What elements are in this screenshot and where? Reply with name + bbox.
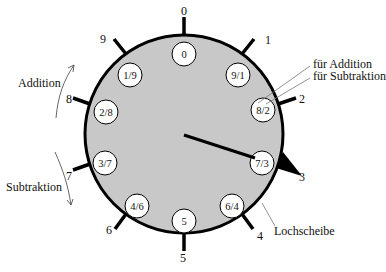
outer-number-8: 8 [66,92,72,106]
subtraktion-label: Subtraktion [6,180,62,194]
fuer-subtraktion-label: für Subtraktion [313,69,386,83]
dial-diagram: 0 1 2 3 4 5 6 7 8 9 0 9/1 8/2 7/3 6/4 [0,0,386,272]
outer-number-5: 5 [180,251,186,265]
outer-number-0: 0 [181,4,187,18]
outer-number-4: 4 [257,229,263,243]
addition-label: Addition [18,76,61,90]
hole-label-8-2: 8/2 [256,105,269,116]
outer-number-2: 2 [299,92,305,106]
outer-number-6: 6 [106,223,112,237]
outer-number-7: 7 [66,169,72,183]
hole-label-3-7: 3/7 [98,158,111,169]
hole-label-7-3: 7/3 [255,158,268,169]
hole-label-0: 0 [181,49,186,60]
lochscheibe-label: Lochscheibe [274,224,335,238]
hole-label-5: 5 [181,216,186,227]
outer-number-9: 9 [100,32,106,46]
hole-label-2-8: 2/8 [99,107,112,118]
hole-label-1-9: 1/9 [123,70,136,81]
outer-number-1: 1 [265,33,271,47]
hole-label-6-4: 6/4 [225,201,239,212]
hole-label-9-1: 9/1 [231,70,244,81]
hole-label-4-6: 4/6 [130,201,143,212]
outer-number-3: 3 [299,170,305,184]
